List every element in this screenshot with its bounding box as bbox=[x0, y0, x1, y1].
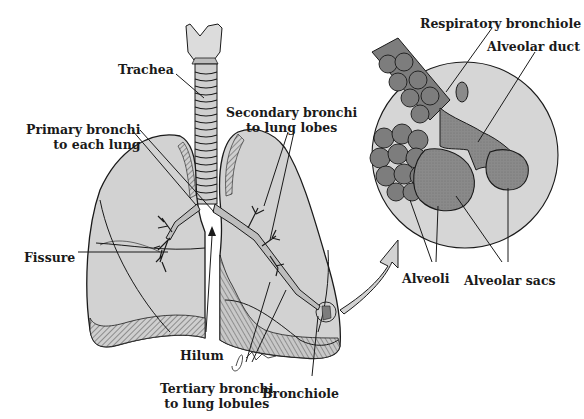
label-primary-bronchi: Primary bronchi to each lung bbox=[26, 122, 140, 152]
magnify-arrow bbox=[340, 240, 398, 314]
label-respiratory-bronchiole: Respiratory bronchiole bbox=[420, 16, 581, 31]
larynx bbox=[186, 24, 222, 64]
label-secondary-bronchi-line2: to lung lobes bbox=[226, 120, 357, 135]
trachea bbox=[195, 64, 217, 204]
label-alveolar-sacs: Alveolar sacs bbox=[464, 273, 556, 288]
label-tertiary-bronchi: Tertiary bronchi to lung lobules bbox=[160, 381, 273, 411]
label-alveolar-duct: Alveolar duct bbox=[487, 39, 580, 54]
label-trachea: Trachea bbox=[118, 62, 174, 77]
lung-anatomy-diagram: Trachea Primary bronchi to each lung Sec… bbox=[0, 0, 584, 419]
diagram-illustration bbox=[0, 0, 584, 419]
label-hilum: Hilum bbox=[180, 348, 224, 363]
hilum-arrow bbox=[206, 226, 216, 332]
label-primary-bronchi-line1: Primary bronchi bbox=[26, 122, 140, 137]
label-tertiary-bronchi-line2: to lung lobules bbox=[160, 396, 273, 411]
label-bronchiole: Bronchiole bbox=[262, 386, 339, 401]
label-secondary-bronchi: Secondary bronchi to lung lobes bbox=[226, 105, 357, 135]
label-primary-bronchi-line2: to each lung bbox=[26, 137, 140, 152]
label-tertiary-bronchi-line1: Tertiary bronchi bbox=[160, 381, 273, 396]
label-secondary-bronchi-line1: Secondary bronchi bbox=[226, 105, 357, 120]
label-fissure: Fissure bbox=[24, 250, 75, 265]
magnified-alveolar-region bbox=[370, 38, 558, 248]
label-alveoli: Alveoli bbox=[402, 271, 450, 286]
left-lung bbox=[220, 129, 341, 358]
right-lung bbox=[87, 135, 205, 347]
